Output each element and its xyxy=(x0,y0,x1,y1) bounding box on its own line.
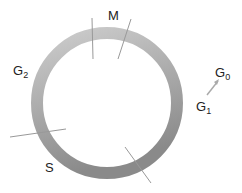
label-m: M xyxy=(108,9,119,22)
cell-cycle-diagram xyxy=(0,0,242,193)
label-s: S xyxy=(45,161,54,174)
cell-cycle-ring xyxy=(37,33,177,173)
phase-divider-m-left xyxy=(92,18,93,59)
label-g2: G2 xyxy=(13,64,28,80)
label-g0: G0 xyxy=(215,66,230,82)
label-g1: G1 xyxy=(196,100,211,116)
